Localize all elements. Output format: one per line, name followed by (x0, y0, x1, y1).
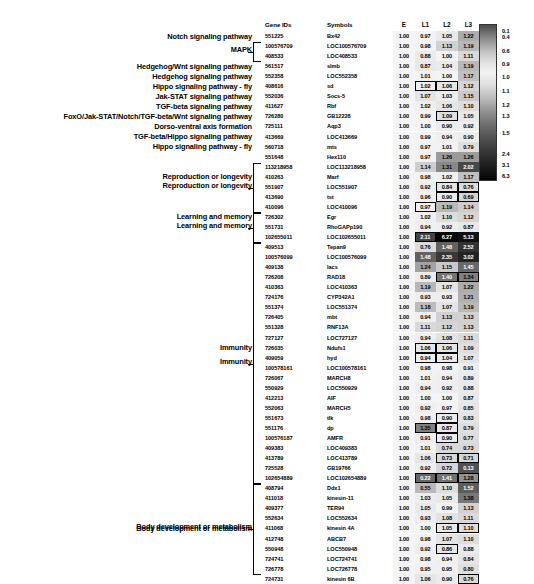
heat-cell-l1: 0.98 (415, 534, 437, 544)
heat-cell-l3: 0.83 (458, 413, 480, 423)
heat-cell-e: 1.00 (393, 192, 415, 202)
gene-id: 100576099 (263, 254, 327, 260)
heat-cell-l1: 0.88 (415, 51, 437, 61)
gene-id: 410263 (263, 174, 327, 180)
row-bracket-slot (254, 142, 263, 152)
gene-symbol: RNF13A (327, 324, 393, 330)
heat-cell-l2: 0.86 (436, 544, 458, 554)
heat-cell-l3: 1.13 (458, 503, 480, 513)
heat-cell-l2: 1.00 (436, 51, 458, 61)
gene-id: 102655011 (263, 234, 327, 240)
gene-id: 551374 (263, 304, 327, 310)
heat-cell-l2: 0.90 (436, 574, 458, 584)
gene-id: 551328 (263, 324, 327, 330)
heat-cell-l1: 0.22 (415, 473, 437, 483)
table-row: TGF-beta signaling pathway411627Rbf1.001… (0, 101, 534, 111)
heat-cell-l1: 0.97 (415, 142, 437, 152)
gene-id: 100576709 (263, 43, 327, 49)
row-annotation: Hedgehog signaling pathway (0, 72, 254, 81)
gene-symbol: kinesin 6B (327, 576, 393, 582)
heat-cell-l1: 1.11 (415, 322, 437, 332)
heat-cell-l2: 0.87 (436, 423, 458, 433)
heat-cell-e: 1.00 (393, 312, 415, 322)
legend-label: 1.1 (502, 88, 509, 94)
gene-symbol: Rbf (327, 103, 393, 109)
heat-cell-l2: 1.07 (436, 282, 458, 292)
table-row: 551673tlk1.000.980.900.83 (0, 413, 534, 423)
gene-id: 726302 (263, 214, 327, 220)
gene-id: 412213 (263, 395, 327, 401)
heat-cell-l3: 1.26 (458, 152, 480, 162)
heat-cell-l3: 1.05 (458, 111, 480, 121)
heat-cell-e: 1.00 (393, 373, 415, 383)
heat-cell-e: 1.00 (393, 292, 415, 302)
row-annotation: Notch signaling pathway (0, 32, 254, 41)
gene-symbol: LOC100576709 (327, 43, 393, 49)
header-gene-ids: Gene IDs (263, 21, 327, 28)
gene-id: 408794 (263, 485, 327, 491)
table-row: 552634LOC5526341.000.931.081.11 (0, 513, 534, 523)
heat-cell-e: 1.00 (393, 31, 415, 41)
heat-cell-l3: 1.21 (458, 292, 480, 302)
heat-cell-l3: 0.73 (458, 443, 480, 453)
legend-label: 6.3 (502, 173, 509, 179)
table-row: 550948LOC5509481.000.920.860.88 (0, 544, 534, 554)
table-row: 726405mbt1.000.941.131.13 (0, 312, 534, 322)
gene-symbol: LOC413669 (327, 134, 393, 140)
group-bracket (253, 484, 261, 574)
header-bracket-col (254, 18, 263, 31)
gene-symbol: AIF (327, 395, 393, 401)
heat-cell-l1: 1.35 (415, 423, 437, 433)
heat-cell-l3: 1.11 (458, 513, 480, 523)
heat-cell-l2: 1.01 (436, 142, 458, 152)
gene-symbol: tlk (327, 415, 393, 421)
heat-cell-l1: 1.06 (415, 574, 437, 584)
heat-cell-l1: 1.02 (415, 101, 437, 111)
heat-cell-l2: 1.07 (436, 534, 458, 544)
heat-cell-l2: 1.41 (436, 473, 458, 483)
heat-cell-l3: 0.77 (458, 433, 480, 443)
heat-cell-l1: 1.01 (415, 373, 437, 383)
gene-symbol: sd (327, 83, 393, 89)
heat-cell-l3: 1.19 (458, 41, 480, 51)
heat-cell-l3: 1.13 (458, 312, 480, 322)
gene-id: 727127 (263, 335, 327, 341)
gene-id: 726778 (263, 566, 327, 572)
heat-cell-l3: 0.88 (458, 383, 480, 393)
heat-cell-l1: 1.02 (415, 81, 437, 91)
heat-cell-l3: 1.22 (458, 282, 480, 292)
heat-cell-l2: 1.31 (436, 162, 458, 172)
gene-id: 410096 (263, 204, 327, 210)
heat-cell-l2: 0.74 (436, 443, 458, 453)
heat-cell-l3: 0.91 (458, 363, 480, 373)
gene-symbol: LOC102655011 (327, 234, 393, 240)
gene-symbol: tst (327, 194, 393, 200)
heat-cell-e: 1.00 (393, 534, 415, 544)
legend-label: 1.5 (502, 130, 509, 136)
legend-label: 0.1 (502, 28, 509, 34)
heat-cell-l3: 1.17 (458, 172, 480, 182)
row-annotation: Hippo signaling pathway - fly (0, 82, 254, 91)
heat-cell-l2: 1.05 (436, 523, 458, 533)
heat-cell-e: 1.00 (393, 61, 415, 71)
gene-id: 724176 (263, 294, 327, 300)
gene-id: 409513 (263, 244, 327, 250)
heat-cell-l3: 2.52 (458, 242, 480, 252)
heat-cell-e: 1.00 (393, 81, 415, 91)
heat-cell-l1: 0.97 (415, 31, 437, 41)
heat-cell-l2: 1.08 (436, 333, 458, 343)
table-row: Notch signaling pathway551225Bx421.000.9… (0, 31, 534, 41)
heat-cell-l2: 0.95 (436, 564, 458, 574)
gene-symbol: Hex110 (327, 154, 393, 160)
gene-id: 550929 (263, 385, 327, 391)
legend-label: 1.3 (502, 113, 509, 119)
table-row: 411018kinesin-111.001.031.051.38 (0, 493, 534, 503)
gene-id: 410363 (263, 284, 327, 290)
table-row: 409383LOC4093831.001.010.740.73 (0, 443, 534, 453)
heat-cell-e: 1.00 (393, 232, 415, 242)
table-row: 727127LOC7271271.000.941.081.11 (0, 333, 534, 343)
gene-id: 552063 (263, 405, 327, 411)
gene-id: 411068 (263, 525, 327, 531)
heat-cell-l2: 1.13 (436, 312, 458, 322)
group-bracket (253, 213, 261, 243)
